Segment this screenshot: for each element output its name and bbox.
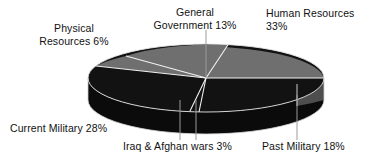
label-general-government-line2: Government 13%	[153, 19, 236, 31]
label-current-military: Current Military 28%	[10, 122, 107, 135]
label-human-resources: Human Resources 33%	[266, 7, 354, 32]
label-physical-resources-line1: Physical	[54, 22, 94, 34]
label-past-military: Past Military 18%	[262, 140, 345, 153]
label-iraq-afghan-wars: Iraq & Afghan wars 3%	[123, 140, 232, 153]
label-physical-resources-line2: Resources 6%	[39, 35, 108, 47]
pie-chart-figure: Human Resources 33% General Government 1…	[0, 0, 373, 162]
label-human-resources-line1: Human Resources	[266, 7, 354, 19]
label-human-resources-line2: 33%	[266, 20, 287, 32]
label-physical-resources: Physical Resources 6%	[26, 22, 122, 47]
label-general-government: General Government 13%	[147, 6, 243, 31]
label-general-government-line1: General	[176, 6, 214, 18]
